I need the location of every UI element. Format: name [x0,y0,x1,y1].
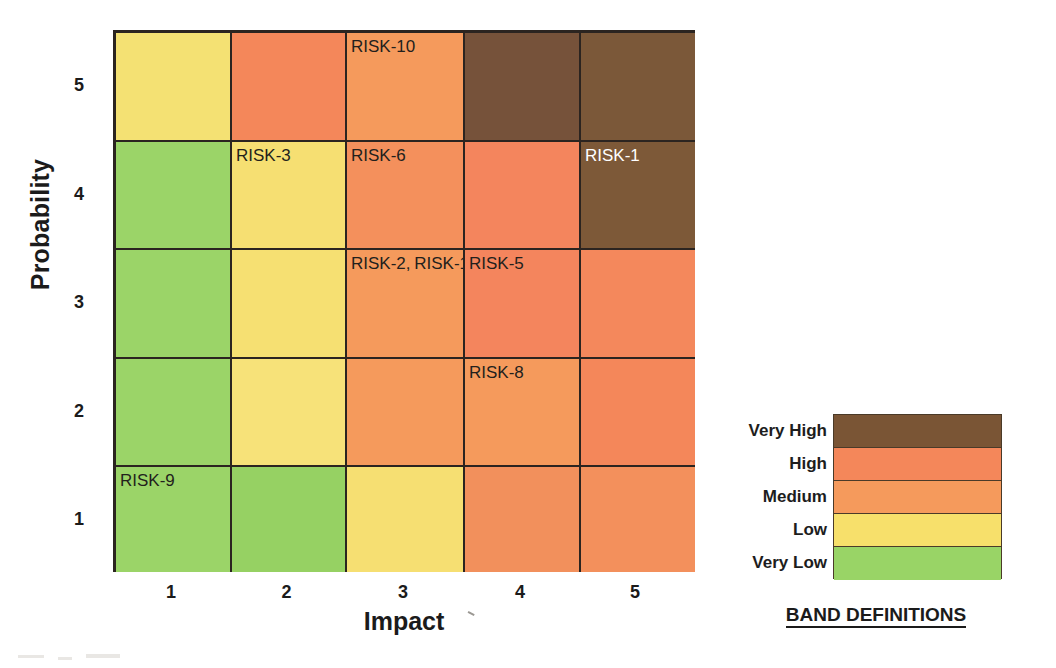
matrix-cell-p3-i1[interactable] [116,250,232,359]
y-axis-tick-5: 5 [62,75,96,96]
legend-swatch-stack [833,414,1002,579]
matrix-cell-p4-i3[interactable]: RISK-6 [347,142,465,250]
matrix-cell-p1-i4[interactable] [465,467,581,572]
matrix-cell-p4-i1[interactable] [116,142,232,250]
scan-artifact-speck [58,657,72,660]
legend-band-swatch [834,448,1001,481]
legend-caption: BAND DEFINITIONS [750,604,1002,626]
matrix-cell-p5-i5[interactable] [581,33,695,142]
matrix-cell-label: RISK-2, RISK-11 [351,251,465,276]
legend-band-label: Very Low [667,546,827,579]
matrix-cell-label: RISK-5 [469,251,524,276]
matrix-cell-p1-i2[interactable] [232,467,347,572]
legend-band-swatch [834,415,1001,448]
matrix-cell-p2-i4[interactable]: RISK-8 [465,359,581,467]
legend-band-label: Medium [667,480,827,513]
matrix-cell-p4-i5[interactable]: RISK-1 [581,142,695,250]
matrix-cell-label: RISK-1 [585,143,640,168]
matrix-cell-p5-i2[interactable] [232,33,347,142]
matrix-cell-p1-i1[interactable]: RISK-9 [116,467,232,572]
y-axis-tick-3: 3 [62,292,96,313]
x-axis-tick-row: 1 2 3 4 5 [113,578,695,606]
matrix-cell-label: RISK-10 [351,34,415,59]
matrix-cell-p3-i5[interactable] [581,250,695,359]
matrix-cell-p3-i3[interactable]: RISK-2, RISK-11 [347,250,465,359]
legend-band-label: Very High [667,414,827,447]
legend-caption-text: BAND DEFINITIONS [786,604,967,628]
x-axis-tick-4: 4 [462,578,578,606]
matrix-cell-p5-i1[interactable] [116,33,232,142]
x-axis-tick-5: 5 [578,578,692,606]
y-axis-tick-4: 4 [62,184,96,205]
y-axis-tick-1: 1 [62,509,96,530]
legend-band-swatch [834,547,1001,580]
band-definitions-legend: Very HighHighMediumLowVery Low [750,414,1002,579]
x-axis-title: Impact [113,607,695,636]
y-axis-tick-2: 2 [62,401,96,422]
x-axis-tick-1: 1 [113,578,229,606]
legend-band-label: High [667,447,827,480]
matrix-cell-p2-i3[interactable] [347,359,465,467]
legend-band-swatch [834,481,1001,514]
matrix-cell-p4-i2[interactable]: RISK-3 [232,142,347,250]
matrix-cell-p3-i2[interactable] [232,250,347,359]
scan-artifact-speck [18,655,44,658]
matrix-cell-label: RISK-3 [236,143,291,168]
legend-band-swatch [834,514,1001,547]
matrix-cell-p1-i3[interactable] [347,467,465,572]
matrix-cell-p3-i4[interactable]: RISK-5 [465,250,581,359]
matrix-cell-p5-i4[interactable] [465,33,581,142]
matrix-cell-p5-i3[interactable]: RISK-10 [347,33,465,142]
matrix-cell-p2-i1[interactable] [116,359,232,467]
matrix-cell-label: RISK-8 [469,360,524,385]
legend-band-label: Low [667,513,827,546]
matrix-cell-p4-i4[interactable] [465,142,581,250]
matrix-cell-p2-i2[interactable] [232,359,347,467]
matrix-cell-label: RISK-6 [351,143,406,168]
x-axis-tick-3: 3 [344,578,462,606]
matrix-cell-label: RISK-9 [120,468,175,493]
scan-artifact-speck [86,654,120,658]
x-axis-tick-2: 2 [229,578,344,606]
y-axis-title: Probability [26,125,55,325]
risk-matrix-grid: RISK-10RISK-3RISK-6RISK-1RISK-2, RISK-11… [113,30,695,572]
